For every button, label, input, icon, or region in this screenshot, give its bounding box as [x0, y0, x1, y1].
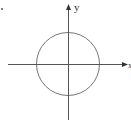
diagram-canvas — [0, 0, 131, 123]
y-axis-label: y — [74, 2, 80, 13]
y-axis-arrow-icon — [66, 4, 71, 10]
x-axis-label: x — [128, 62, 131, 70]
marker-dot — [1, 8, 3, 10]
